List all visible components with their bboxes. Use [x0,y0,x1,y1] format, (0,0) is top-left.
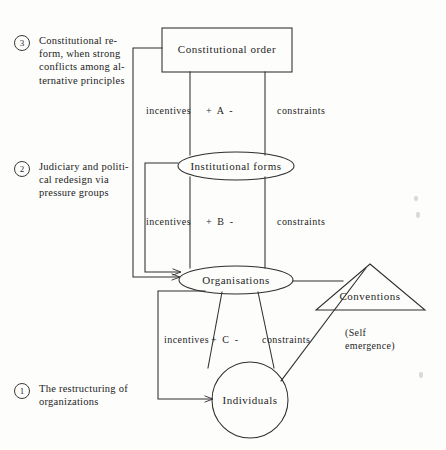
level-c-incentives-label: incentives [164,334,209,345]
annotation-1: 1 The restructuring of organizations [14,382,144,408]
individuals-label: Individuals [212,394,288,406]
self-emergence-line-2: emergence) [345,340,395,353]
conventions-triangle [316,264,425,310]
level-c-constraint-line [258,292,274,368]
level-b-incentives-label: incentives [146,216,191,227]
level-c-sign-label: + C - [211,334,240,345]
annotation-2-text: Judiciary and politi- cal redesign via p… [39,160,139,200]
level-b-sign-label: + B - [206,216,235,227]
conventions-label: Conventions [325,290,415,302]
constitutional-order-label: Constitutional order [162,43,292,55]
self-emergence-line-1: (Self [345,327,366,340]
self-emergence-line [281,268,366,381]
scan-speck [416,212,420,218]
level-a-sign-label: + A - [206,105,234,116]
annotation-3-text: Constitutional re- form, when strong con… [39,34,139,87]
annotation-1-text: The restructuring of organizations [39,382,144,408]
institutional-forms-label: Institutional forms [178,160,294,172]
annotation-2: 2 Judiciary and politi- cal redesign via… [14,160,139,200]
level-a-constraints-label: constraints [277,105,325,116]
feedback-bracket-organisations [158,291,212,399]
scan-speck [414,196,418,201]
annotation-2-number: 2 [14,161,30,177]
annotation-3-number: 3 [14,35,30,51]
annotation-3: 3 Constitutional re- form, when strong c… [14,34,139,87]
level-a-incentives-label: incentives [146,105,191,116]
figure-canvas: 3 Constitutional re- form, when strong c… [0,0,446,450]
organisations-label: Organisations [179,274,293,286]
level-c-incentive-line [208,292,222,368]
level-b-constraints-label: constraints [277,216,325,227]
level-c-constraints-label: constraints [262,334,310,345]
annotation-1-number: 1 [14,383,30,399]
scan-speck [419,372,423,378]
